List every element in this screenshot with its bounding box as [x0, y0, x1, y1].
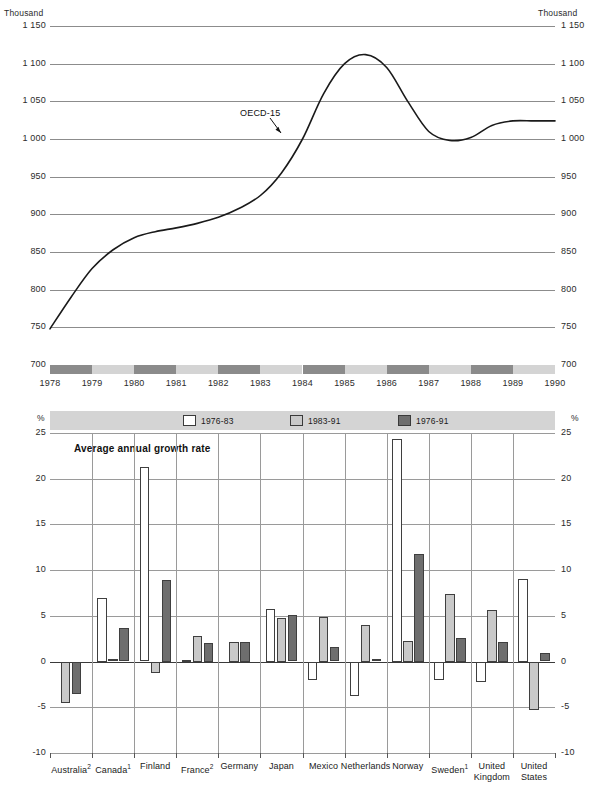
category-separator — [387, 433, 388, 753]
line-x-tick-label: 1983 — [238, 378, 282, 388]
bar-y-tick-label: -10 — [4, 747, 46, 757]
bar-france-series-1 — [182, 660, 192, 662]
x-tick-mark — [429, 753, 430, 758]
bar-chart-unit-left: % — [37, 413, 45, 423]
line-x-tick-label: 1985 — [323, 378, 367, 388]
x-tick-mark — [176, 753, 177, 758]
bar-sweden-series-3 — [456, 638, 466, 662]
bar-chart-legend: 1976-83 1983-91 1976-91 — [50, 411, 555, 430]
category-separator — [218, 433, 219, 753]
x-tick-mark — [555, 753, 556, 758]
category-separator — [303, 433, 304, 753]
year-band — [387, 365, 429, 374]
annotation-oecd-15: OECD-15 — [240, 108, 280, 118]
bar-y-tick-label: 10 — [4, 564, 46, 574]
category-separator — [429, 433, 430, 753]
bar-canada-series-1 — [97, 598, 107, 662]
x-axis-label-united-states: UnitedStates — [507, 761, 561, 783]
bar-finland-series-2 — [151, 662, 161, 674]
bar-united-kingdom-series-3 — [498, 642, 508, 661]
year-band — [50, 365, 92, 374]
x-tick-mark — [92, 753, 93, 758]
x-tick-mark — [50, 753, 51, 758]
bar-finland-series-3 — [162, 580, 172, 661]
category-separator — [345, 433, 346, 753]
legend-item-1976-83[interactable]: 1976-83 — [183, 411, 234, 430]
line-x-tick-label: 1990 — [533, 378, 577, 388]
line-x-tick-label: 1978 — [28, 378, 72, 388]
category-separator — [176, 433, 177, 753]
bar-chart: % % 1976-83 1983-91 1976-91 Average annu… — [0, 405, 606, 803]
bar-france-series-3 — [204, 643, 214, 661]
line-x-tick-label: 1988 — [449, 378, 493, 388]
bar-chart-title: Average annual growth rate — [74, 443, 211, 454]
bar-y-tick-label-right: 15 — [561, 518, 603, 528]
bar-y-tick-label: 5 — [4, 610, 46, 620]
bar-germany-series-2 — [229, 642, 239, 662]
legend-swatch-icon-1976-83 — [183, 415, 196, 426]
bar-canada-series-2 — [108, 659, 118, 662]
line-x-tick-label: 1986 — [365, 378, 409, 388]
bar-norway-series-1 — [392, 439, 402, 661]
category-separator — [513, 433, 514, 753]
line-x-tick-label: 1987 — [407, 378, 451, 388]
year-band — [513, 365, 555, 374]
bar-germany-series-3 — [240, 642, 250, 661]
bar-mexico-series-2 — [319, 617, 329, 662]
bar-y-tick-label: 20 — [4, 473, 46, 483]
bar-y-tick-label-right: -10 — [561, 747, 603, 757]
bar-mexico-series-1 — [308, 662, 318, 680]
bar-australia-series-2 — [61, 662, 71, 703]
legend-label-1983-91: 1983-91 — [308, 416, 341, 426]
bar-japan-series-3 — [288, 615, 298, 662]
year-band — [92, 365, 134, 374]
line-x-tick-label: 1979 — [70, 378, 114, 388]
bar-y-tick-label: 15 — [4, 518, 46, 528]
bar-japan-series-1 — [266, 609, 276, 662]
bar-netherlands-series-1 — [350, 662, 360, 697]
line-x-tick-label: 1982 — [196, 378, 240, 388]
bar-united-kingdom-series-1 — [476, 662, 486, 682]
bar-united-kingdom-series-2 — [487, 610, 497, 662]
bar-y-tick-label: 0 — [4, 656, 46, 666]
category-separator — [471, 433, 472, 753]
bar-netherlands-series-2 — [361, 625, 371, 662]
bar-norway-series-3 — [414, 554, 424, 662]
legend-label-1976-83: 1976-83 — [201, 416, 234, 426]
category-separator — [260, 433, 261, 753]
bar-y-tick-label-right: -5 — [561, 701, 603, 711]
bar-united-states-series-3 — [540, 653, 550, 661]
year-band — [471, 365, 513, 374]
line-chart: Thousand Thousand 7007508008509009501 00… — [0, 0, 606, 400]
bar-chart-unit-right: % — [571, 413, 579, 423]
year-band — [134, 365, 176, 374]
year-band — [429, 365, 471, 374]
x-tick-mark — [134, 753, 135, 758]
year-band — [345, 365, 387, 374]
line-x-tick-label: 1989 — [491, 378, 535, 388]
line-x-tick-label: 1980 — [112, 378, 156, 388]
bar-sweden-series-2 — [445, 594, 455, 662]
line-x-tick-label: 1981 — [154, 378, 198, 388]
bar-australia-series-3 — [72, 662, 82, 694]
x-tick-mark — [218, 753, 219, 758]
legend-label-1976-91: 1976-91 — [416, 416, 449, 426]
bar-y-tick-label: -5 — [4, 701, 46, 711]
bar-united-states-series-1 — [518, 579, 528, 661]
legend-item-1983-91[interactable]: 1983-91 — [290, 411, 341, 430]
bar-canada-series-3 — [119, 628, 129, 662]
legend-swatch-icon-1983-91 — [290, 415, 303, 426]
year-band-strip — [50, 365, 555, 374]
x-tick-mark — [260, 753, 261, 758]
bar-finland-series-1 — [140, 467, 150, 662]
bar-netherlands-series-3 — [372, 659, 382, 662]
bar-norway-series-2 — [403, 641, 413, 662]
x-tick-mark — [387, 753, 388, 758]
legend-item-1976-91[interactable]: 1976-91 — [398, 411, 449, 430]
x-tick-mark — [303, 753, 304, 758]
line-x-tick-label: 1984 — [281, 378, 325, 388]
bar-japan-series-2 — [277, 618, 287, 662]
bar-y-tick-label-right: 5 — [561, 610, 603, 620]
bar-y-tick-label-right: 0 — [561, 656, 603, 666]
bar-y-tick-label-right: 25 — [561, 427, 603, 437]
